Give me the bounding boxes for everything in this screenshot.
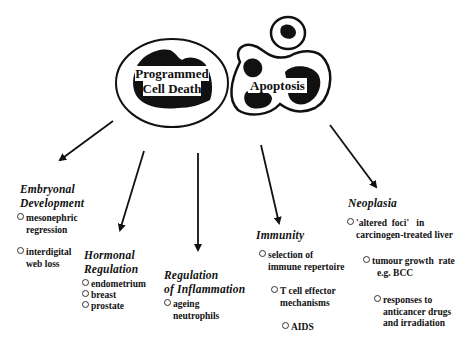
bullet-icon	[82, 290, 89, 297]
bullet-icon	[82, 279, 89, 286]
list-item: mesonephric regression	[17, 213, 78, 236]
list-item: prostate	[82, 301, 124, 313]
bullet-icon	[17, 247, 24, 254]
apoptosis-text: Apoptosis	[250, 78, 305, 93]
programmed-cell-death-label: Programmed Cell Death	[134, 66, 210, 96]
bullet-icon	[374, 295, 381, 302]
list-item: AIDS	[282, 322, 314, 334]
neoplasia-heading: Neoplasia	[348, 196, 397, 210]
list-item: breast	[82, 290, 116, 302]
bullet-icon	[271, 286, 278, 293]
immunity-heading: Immunity	[256, 228, 304, 242]
list-item: 'altered foci' in carcinogen-treated liv…	[347, 218, 453, 241]
list-item: tumour growth rate e.g. BCC	[363, 256, 455, 279]
list-item: responses to anticancer drugs and irradi…	[374, 295, 451, 330]
arrow-hormonal	[120, 151, 144, 230]
list-item: T cell effector mechanisms	[271, 286, 336, 309]
bullet-icon	[164, 299, 171, 306]
list-item: ageing neutrophils	[164, 299, 219, 322]
arrow-embryonal	[60, 121, 113, 160]
bullet-icon	[363, 256, 370, 263]
list-item: endometrium	[82, 279, 146, 291]
bullet-icon	[82, 301, 89, 308]
bullet-icon	[17, 213, 24, 220]
connector-arrows	[60, 121, 376, 250]
bullet-icon	[282, 322, 289, 329]
arrow-immunity	[261, 145, 279, 223]
embryonal-development-heading: Embryonal Development	[20, 182, 84, 210]
apoptosis-cell-icon	[231, 17, 330, 115]
regulation-of-inflammation-heading: Regulation of Inflammation	[164, 268, 245, 296]
pcd-line1: Programmed	[135, 66, 208, 81]
hormonal-regulation-heading: Hormonal Regulation	[84, 248, 138, 276]
list-item: interdigital web loss	[17, 247, 71, 270]
list-item: selection of immune repertoire	[259, 250, 344, 273]
bullet-icon	[347, 218, 354, 225]
arrow-neoplasia	[330, 125, 376, 187]
pcd-line2: Cell Death	[143, 81, 202, 96]
bullet-icon	[259, 250, 266, 257]
apoptosis-label: Apoptosis	[248, 78, 307, 93]
